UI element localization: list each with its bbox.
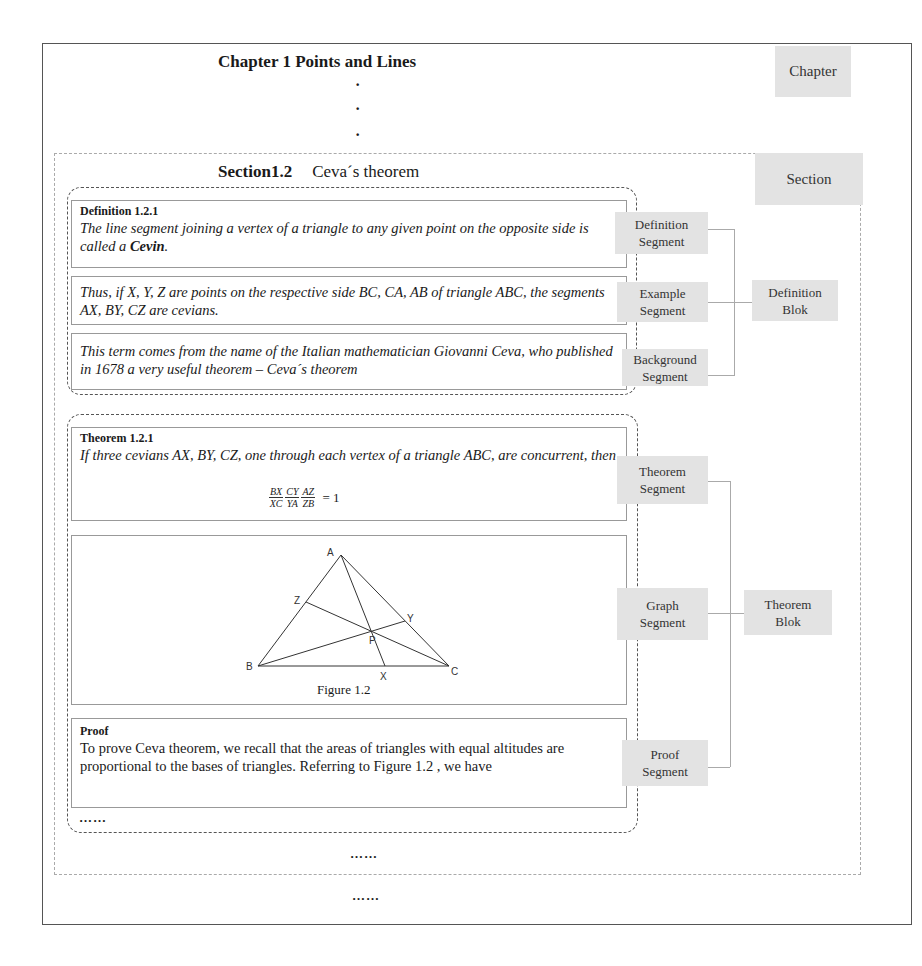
term-cevin: Cevin — [130, 238, 165, 254]
point-label-z: Z — [294, 595, 300, 606]
proof-text: To prove Ceva theorem, we recall that th… — [80, 739, 618, 775]
chapter-ellipsis: …… — [352, 888, 380, 904]
point-label-x: X — [380, 671, 387, 681]
point-label-a: A — [327, 547, 334, 558]
proof-segment: Proof To prove Ceva theorem, we recall t… — [71, 718, 627, 808]
connector-line — [708, 767, 730, 768]
ceva-formula: BXXCCYYAAZZB = 1 — [268, 486, 339, 509]
section-ellipsis: …… — [350, 846, 378, 862]
point-label-y: Y — [407, 613, 414, 624]
point-label-c: C — [451, 666, 458, 677]
definition-heading: Definition 1.2.1 — [80, 203, 618, 219]
point-label-b: B — [246, 661, 253, 672]
theorem-heading: Theorem 1.2.1 — [80, 430, 618, 446]
ellipsis-dot: · — [355, 100, 360, 118]
section-title: Section1.2Ceva´s theorem — [218, 162, 419, 182]
connector-line — [708, 481, 730, 482]
definition-segment-label: DefinitionSegment — [615, 212, 708, 254]
point-label-p: P — [369, 635, 376, 646]
connector-line — [708, 302, 752, 303]
theorem-segment: Theorem 1.2.1 If three cevians AX, BY, C… — [71, 427, 627, 521]
connector-line — [730, 481, 731, 767]
section-label: Section — [755, 153, 863, 205]
connector-line — [708, 613, 744, 614]
example-segment: Thus, if X, Y, Z are points on the respe… — [71, 276, 627, 325]
theorem-segment-label: TheoremSegment — [617, 456, 708, 504]
definition-segment: Definition 1.2.1 The line segment joinin… — [71, 200, 627, 268]
graph-segment-label: GraphSegment — [617, 588, 708, 640]
proof-ellipsis: …… — [79, 810, 107, 826]
section-name: Ceva´s theorem — [312, 162, 419, 181]
ellipsis-dot: · — [355, 126, 360, 144]
theorem-text: If three cevians AX, BY, CZ, one through… — [80, 446, 620, 464]
chapter-label: Chapter — [775, 46, 851, 97]
theorem-block-label: TheoremBlok — [744, 590, 832, 635]
background-segment-label: BackgroundSegment — [622, 349, 708, 386]
definition-text: The line segment joining a vertex of a t… — [80, 219, 618, 255]
background-segment: This term comes from the name of the Ita… — [71, 333, 627, 390]
ellipsis-dot: · — [355, 76, 360, 94]
triangle-figure: A B C X Y Z P — [237, 541, 477, 681]
proof-segment-label: ProofSegment — [622, 740, 708, 786]
connector-line — [708, 229, 735, 230]
figure-caption: Figure 1.2 — [317, 682, 370, 698]
connector-line — [708, 375, 735, 376]
chapter-title: Chapter 1 Points and Lines — [218, 52, 416, 72]
example-segment-label: ExampleSegment — [617, 282, 708, 322]
graph-segment: A B C X Y Z P Figure 1.2 — [71, 535, 627, 705]
definition-block-label: DefinitionBlok — [752, 280, 838, 321]
background-text: This term comes from the name of the Ita… — [80, 342, 618, 378]
section-number: Section1.2 — [218, 162, 292, 181]
example-text: Thus, if X, Y, Z are points on the respe… — [80, 283, 618, 319]
proof-heading: Proof — [80, 723, 618, 739]
